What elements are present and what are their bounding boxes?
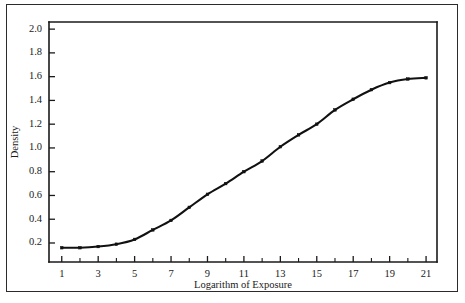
data-point-17 <box>352 98 355 101</box>
data-point-9 <box>206 193 209 196</box>
data-point-1 <box>60 246 63 249</box>
y-tick-label-0.8: 0.8 <box>29 165 42 176</box>
y-tick-label-1.8: 1.8 <box>29 46 42 57</box>
x-axis-title: Logarithm of Exposure <box>194 279 292 290</box>
x-tick-label-17: 17 <box>348 268 359 279</box>
data-point-12 <box>261 160 264 163</box>
density-curve <box>62 78 426 248</box>
data-point-16 <box>334 109 337 112</box>
figure-container: 0.20.40.60.81.01.21.41.61.82.0 135791113… <box>0 0 465 303</box>
x-tick-label-21: 21 <box>421 268 432 279</box>
y-tick-label-1.6: 1.6 <box>29 70 42 81</box>
data-point-18 <box>370 88 373 91</box>
data-point-21 <box>425 77 428 80</box>
data-point-2 <box>79 246 82 249</box>
x-tick-label-1: 1 <box>59 268 64 279</box>
data-point-5 <box>133 238 136 241</box>
x-tick-label-15: 15 <box>312 268 323 279</box>
x-tick-label-5: 5 <box>132 268 137 279</box>
y-tick-label-1.0: 1.0 <box>29 141 42 152</box>
y-tick-label-2.0: 2.0 <box>29 23 42 34</box>
data-point-6 <box>152 229 155 232</box>
y-tick-label-1.4: 1.4 <box>29 94 43 105</box>
y-tick-label-1.2: 1.2 <box>29 118 42 129</box>
x-tick-label-13: 13 <box>275 268 286 279</box>
data-point-3 <box>97 245 100 248</box>
density-curve-markers <box>60 77 427 250</box>
data-point-19 <box>388 81 391 84</box>
data-point-14 <box>297 134 300 137</box>
x-tick-label-19: 19 <box>384 268 395 279</box>
data-point-11 <box>243 170 246 173</box>
data-point-8 <box>188 206 191 209</box>
x-tick-label-7: 7 <box>168 268 173 279</box>
data-point-4 <box>115 243 118 246</box>
y-axis: 0.20.40.60.81.01.21.41.61.82.0 <box>29 23 55 248</box>
data-point-7 <box>170 219 173 222</box>
data-point-13 <box>279 145 282 148</box>
y-tick-label-0.6: 0.6 <box>29 189 42 200</box>
x-axis: 13579111315171921 <box>59 256 431 279</box>
data-point-20 <box>407 78 410 81</box>
data-point-15 <box>315 123 318 126</box>
x-tick-label-11: 11 <box>239 268 249 279</box>
data-point-10 <box>224 182 227 185</box>
x-tick-label-3: 3 <box>96 268 101 279</box>
line-chart-svg: 0.20.40.60.81.01.21.41.61.82.0 135791113… <box>0 0 465 303</box>
chart-plot-area: 0.20.40.60.81.01.21.41.61.82.0 135791113… <box>0 0 465 303</box>
plot-frame <box>49 22 437 262</box>
data-series-group <box>60 77 427 250</box>
y-axis-title: Density <box>9 125 20 158</box>
y-tick-label-0.4: 0.4 <box>29 213 43 224</box>
y-tick-label-0.2: 0.2 <box>29 236 42 247</box>
x-tick-label-9: 9 <box>205 268 210 279</box>
